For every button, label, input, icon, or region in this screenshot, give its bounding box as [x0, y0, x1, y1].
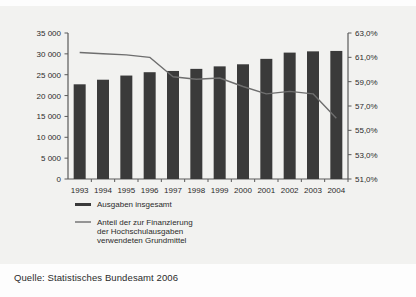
- legend-label-bar: Ausgaben insgesamt: [97, 200, 172, 209]
- bar[interactable]: [237, 64, 249, 179]
- bar[interactable]: [167, 71, 179, 179]
- percentage-line-series[interactable]: [80, 52, 337, 118]
- source-note: Quelle: Statistisches Bundesamt 2006: [14, 272, 178, 283]
- y-tick-label-right: 63,0%: [355, 29, 378, 38]
- x-tick-label: 1999: [211, 186, 229, 195]
- y-tick-label-left: 5 000: [41, 154, 62, 163]
- x-tick-label: 2003: [304, 186, 322, 195]
- x-tick-label: 2000: [234, 186, 252, 195]
- legend-swatch-bar: [75, 203, 91, 206]
- x-tick-label: 1995: [117, 186, 135, 195]
- y-tick-label-left: 20 000: [37, 92, 62, 101]
- bar[interactable]: [307, 51, 319, 179]
- bar[interactable]: [330, 51, 342, 179]
- y-tick-label-right: 61,0%: [355, 53, 378, 62]
- figure-root: 05 00010 00015 00020 00025 00030 00035 0…: [0, 0, 416, 297]
- bar-line-combo-chart: 05 00010 00015 00020 00025 00030 00035 0…: [0, 0, 416, 258]
- bar[interactable]: [120, 76, 132, 179]
- x-tick-label: 1998: [187, 186, 205, 195]
- y-tick-label-right: 57,0%: [355, 102, 378, 111]
- y-tick-label-left: 10 000: [37, 133, 62, 142]
- y-tick-label-right: 53,0%: [355, 151, 378, 160]
- y-tick-label-right: 51,0%: [355, 175, 378, 184]
- bar[interactable]: [144, 72, 156, 179]
- y-tick-label-right: 59,0%: [355, 78, 378, 87]
- y-tick-label-left: 35 000: [37, 29, 62, 38]
- y-tick-label-left: 30 000: [37, 50, 62, 59]
- x-tick-label: 2002: [281, 186, 299, 195]
- bar[interactable]: [260, 59, 272, 179]
- y-tick-label-left: 15 000: [37, 112, 62, 121]
- bar[interactable]: [214, 66, 226, 179]
- y-tick-label-left: 0: [57, 175, 62, 184]
- x-tick-label: 1996: [141, 186, 159, 195]
- legend-label-line-3: verwendeten Grundmittel: [97, 236, 187, 245]
- bar[interactable]: [74, 84, 86, 179]
- bar[interactable]: [190, 69, 202, 179]
- bar[interactable]: [284, 53, 296, 179]
- x-tick-label: 1994: [94, 186, 112, 195]
- x-tick-label: 1997: [164, 186, 182, 195]
- legend-label-line-2: der Hochschulausgaben: [97, 227, 183, 236]
- x-tick-label: 2001: [257, 186, 275, 195]
- x-tick-label: 2004: [327, 186, 345, 195]
- y-tick-label-right: 55,0%: [355, 126, 378, 135]
- bar[interactable]: [97, 80, 109, 179]
- x-tick-label: 1993: [71, 186, 89, 195]
- chart-canvas: 05 00010 00015 00020 00025 00030 00035 0…: [0, 0, 416, 258]
- legend-label-line-1: Anteil der zur Finanzierung: [97, 218, 193, 227]
- y-tick-label-left: 25 000: [37, 71, 62, 80]
